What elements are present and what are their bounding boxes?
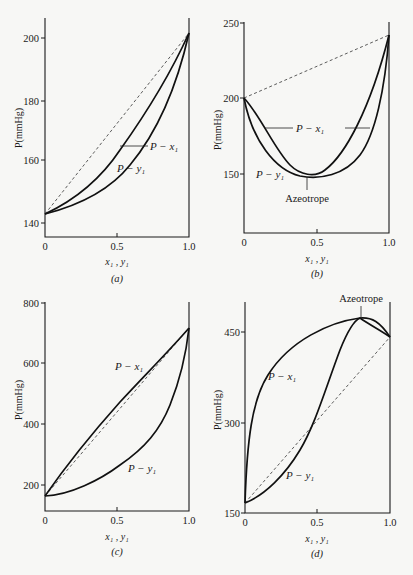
y-tick-label: 200 (23, 480, 39, 491)
label-p-x1: P − x₁ (267, 370, 296, 382)
y-tick-label: 200 (223, 93, 239, 104)
panel-label: (d) (311, 548, 324, 560)
azeotrope-label: Azeotrope (285, 193, 329, 204)
chart-panel-a: 200 180 160 140 0 0.5 1.0 P(mmHg) x₁ , y… (13, 18, 196, 285)
y-tick-label: 160 (23, 155, 39, 166)
y-tick-label: 150 (224, 508, 240, 519)
x-tick-label: 0.5 (310, 517, 323, 528)
x-tick-label: 0.5 (110, 241, 123, 252)
x-axis-label: x₁ , y₁ (104, 531, 128, 542)
panel-label: (c) (111, 546, 123, 558)
label-p-x1: P − x₁ (114, 360, 143, 372)
chart-panel-b: 250 200 150 0 0.5 1.0 P(mmHg) x₁ , y₁ (b… (212, 18, 396, 280)
curve-p-x1 (244, 35, 389, 175)
x-axis-label: x₁ , y₁ (104, 256, 128, 267)
x-tick-label: 0.5 (310, 237, 323, 248)
y-axis-label: P(mmHg) (13, 380, 25, 420)
x-tick-label: 0 (241, 237, 246, 248)
axis-frame-a (45, 18, 189, 237)
pxy-figure: 200 180 160 140 0 0.5 1.0 P(mmHg) x₁ , y… (0, 0, 413, 575)
curve-p-y1 (244, 35, 389, 177)
x-tick-label: 0 (242, 517, 247, 528)
x-axis-label: x₁ , y₁ (304, 533, 328, 544)
x-tick-label: 0.5 (110, 515, 123, 526)
y-tick-label: 600 (23, 358, 39, 369)
x-tick-label: 1.0 (383, 517, 396, 528)
ideal-line (245, 337, 390, 503)
y-tick-label: 250 (223, 18, 239, 29)
label-p-x1: P − x₁ (149, 140, 178, 152)
axis-frame-d (245, 302, 390, 513)
ideal-line (45, 33, 189, 214)
x-tick-label: 1.0 (182, 241, 195, 252)
azeotrope-label: Azeotrope (339, 293, 383, 304)
ideal-line (244, 35, 389, 98)
y-axis-label: P(mmHg) (212, 110, 224, 150)
y-tick-label: 180 (23, 96, 39, 107)
panel-label: (a) (111, 273, 124, 285)
chart-panel-d: 450 300 150 0 0.5 1.0 P(mmHg) x₁ , y₁ (d… (212, 293, 397, 560)
x-tick-label: 1.0 (382, 237, 395, 248)
y-axis-label: P(mmHg) (13, 108, 25, 148)
label-p-x1: P − x₁ (295, 122, 324, 134)
x-tick-label: 1.0 (182, 515, 195, 526)
y-tick-label: 200 (23, 33, 39, 44)
panel-label: (b) (311, 268, 324, 280)
x-axis-label: x₁ , y₁ (304, 253, 328, 264)
label-p-y1: P − y₁ (285, 469, 314, 481)
y-tick-label: 140 (23, 218, 39, 229)
y-tick-label: 400 (23, 419, 39, 430)
label-p-y1: P − y₁ (255, 168, 284, 180)
chart-panel-c: 800 600 400 200 0 0.5 1.0 P(mmHg) x₁ , y… (13, 298, 196, 558)
y-tick-label: 450 (224, 327, 240, 338)
x-tick-label: 0 (42, 515, 47, 526)
y-tick-label: 150 (223, 169, 239, 180)
label-p-y1: P − y₁ (127, 462, 156, 474)
x-tick-label: 0 (42, 241, 47, 252)
y-tick-label: 300 (224, 418, 240, 429)
y-tick-label: 800 (23, 298, 39, 309)
label-p-y1: P − y₁ (116, 162, 145, 174)
curve-p-y1 (245, 318, 390, 503)
y-axis-label: P(mmHg) (212, 390, 224, 430)
